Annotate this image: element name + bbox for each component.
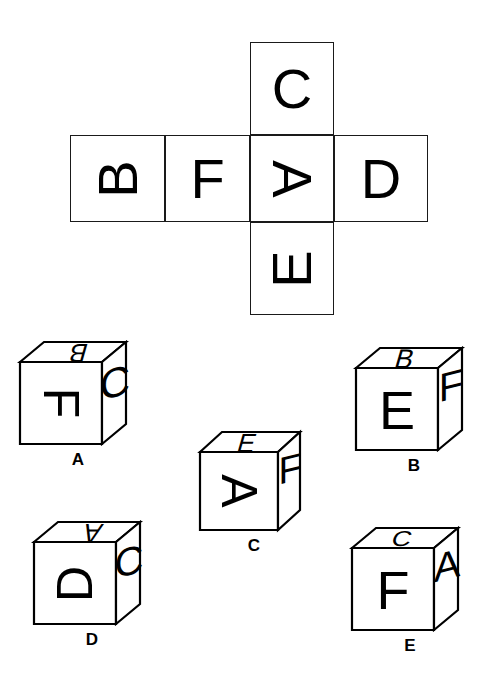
cube-net: C B F A D E xyxy=(0,0,503,330)
cube-e-right-letter: A xyxy=(434,539,461,591)
option-cube-b[interactable]: E B F B xyxy=(352,344,476,476)
cube-b-right-letter: F xyxy=(439,360,463,411)
option-cube-e[interactable]: F C A E xyxy=(348,524,472,658)
cube-c-right-letter: F xyxy=(278,444,301,492)
net-letter-e: E xyxy=(264,250,320,287)
net-cell-d: D xyxy=(334,135,428,222)
net-letter-f: F xyxy=(190,151,224,207)
net-letter-d: D xyxy=(361,151,401,207)
cube-d-right-letter: C xyxy=(115,535,144,588)
puzzle-canvas: C B F A D E F B C A xyxy=(0,0,503,695)
cube-a-front-letter: F xyxy=(33,388,89,419)
net-letter-c: C xyxy=(272,61,312,117)
cube-e-label: E xyxy=(348,636,472,656)
cube-b-front-letter: E xyxy=(379,380,415,440)
option-cube-c[interactable]: A E F C xyxy=(196,428,312,558)
cube-d-front-letter: D xyxy=(47,566,103,602)
net-cell-f: F xyxy=(165,135,250,222)
cube-b-label: B xyxy=(352,456,476,476)
net-cell-b: B xyxy=(70,135,165,222)
cube-a-right-letter: C xyxy=(100,355,130,410)
net-cell-e: E xyxy=(250,222,334,315)
cube-a-label: A xyxy=(16,450,140,470)
option-cube-a[interactable]: F B C A xyxy=(16,338,140,470)
cube-c-label: C xyxy=(196,536,312,556)
cube-d-label: D xyxy=(30,630,154,650)
net-cell-a: A xyxy=(250,135,334,222)
option-cube-d[interactable]: D A C D xyxy=(30,518,154,652)
net-letter-b: B xyxy=(89,160,145,197)
net-letter-a: A xyxy=(264,160,320,197)
cube-e-front-letter: F xyxy=(377,560,410,620)
cube-c-front-letter: A xyxy=(211,474,267,508)
net-cell-c: C xyxy=(250,42,334,135)
